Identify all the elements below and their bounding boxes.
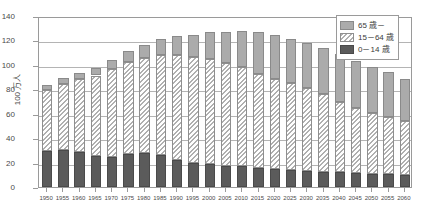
x-axis-tick-mark [176,188,177,192]
bar-segment-elderly [318,48,328,94]
bar-stack [139,45,149,187]
bar-stack [302,43,312,187]
x-axis-tick-mark [62,188,63,192]
bar-segment-working [139,58,149,154]
bar-stack [74,73,84,187]
x-axis-tick-mark [160,188,161,192]
bar-segment-young [156,155,166,187]
bar-segment-working [42,90,52,151]
x-axis-tick-mark [95,188,96,192]
bar-segment-elderly [253,32,263,73]
y-axis-tick-label: 100 [0,62,15,70]
elderly-swatch-icon [340,21,354,30]
x-axis-tick-mark [46,188,47,192]
y-axis-tick-label: 60 [0,111,15,119]
y-axis-tick-mark [33,188,38,189]
bar-stack [286,39,296,187]
population-bar-chart: 100 万人 020406080100120140 19501955196019… [0,0,429,211]
x-axis-tick-mark [258,188,259,192]
legend-item-elderly: 65 歳－ [340,20,394,31]
bar-segment-working [58,84,68,151]
bar-segment-elderly [351,61,361,108]
bar-stack [351,61,361,187]
bar-stack [123,51,133,187]
bar-segment-young [123,154,133,187]
bar-stack [400,79,410,187]
bar-segment-elderly [205,32,215,59]
x-axis-tick-mark [306,188,307,192]
bar-segment-young [318,172,328,187]
bar-segment-elderly [367,67,377,113]
x-axis-tick-mark [355,188,356,192]
bar-segment-working [91,76,101,157]
x-axis-tick-mark [290,188,291,192]
bar-stack [205,32,215,187]
bar-segment-elderly [42,85,52,90]
bar-segment-elderly [302,43,312,88]
bar-segment-working [156,55,166,156]
bar-segment-working [270,79,280,169]
bar-segment-young [188,163,198,187]
x-axis-tick-mark [127,188,128,192]
x-axis-tick-mark [388,188,389,192]
bar-segment-young [172,160,182,187]
legend-item-working: 15－64 歳 [340,32,394,43]
bar-segment-working [383,117,393,175]
bar-segment-young [107,157,117,187]
legend-label-young: 0－14 歳 [358,45,390,54]
legend-label-working: 15－64 歳 [358,33,394,42]
x-axis-tick-mark [79,188,80,192]
bar-segment-young [335,172,345,187]
bar-segment-elderly [172,36,182,54]
bar-segment-working [221,63,231,166]
bar-stack [172,36,182,187]
y-axis-tick-label: 20 [0,160,15,168]
bar-stack [237,31,247,187]
bar-segment-young [42,151,52,187]
bar-stack [367,67,377,187]
bar-segment-elderly [139,45,149,58]
bar-segment-working [335,102,345,173]
bar-segment-young [302,171,312,187]
bar-segment-working [205,59,215,164]
x-axis-tick-mark [225,188,226,192]
bar-segment-elderly [91,68,101,76]
chart-legend: 65 歳－ 15－64 歳 0－14 歳 [336,15,399,60]
bar-segment-young [237,166,247,187]
bar-segment-elderly [58,78,68,84]
bar-segment-working [286,83,296,169]
x-axis-tick-mark [209,188,210,192]
bar-segment-young [253,168,263,187]
bar-segment-working [74,79,84,152]
bar-segment-working [367,113,377,174]
bar-segment-elderly [400,79,410,121]
bar-segment-young [91,156,101,187]
chart-title [0,0,429,1]
bar-segment-young [270,169,280,187]
x-axis-tick-mark [323,188,324,192]
bar-segment-young [58,150,68,187]
bar-segment-young [367,174,377,187]
young-swatch-icon [340,45,354,54]
bar-segment-young [74,152,84,187]
y-axis-tick-label: 80 [0,86,15,94]
bar-segment-working [318,94,328,171]
bar-stack [253,32,263,187]
y-axis-tick-label: 0 [0,184,15,192]
bar-segment-working [188,57,198,163]
bar-segment-elderly [107,60,117,69]
bar-segment-elderly [74,73,84,80]
bar-stack [156,39,166,187]
bar-segment-young [139,153,149,187]
y-axis-tick-label: 120 [0,37,15,45]
y-axis-tick-label: 140 [0,13,15,21]
x-axis-tick-mark [404,188,405,192]
x-axis-tick-mark [144,188,145,192]
bar-segment-working [107,69,117,156]
bar-segment-elderly [335,54,345,101]
working-swatch-icon [340,33,354,42]
bar-stack [335,54,345,187]
x-axis-tick-mark [241,188,242,192]
bar-segment-working [123,62,133,154]
bar-segment-elderly [383,72,393,117]
